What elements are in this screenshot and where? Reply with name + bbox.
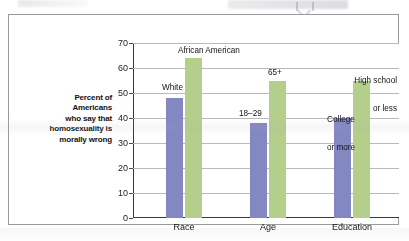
y-tick-60 [129,68,133,69]
y-axis-title-line-3: who say that [19,114,112,124]
y-tick-label-10: 10 [104,189,128,198]
scan-artifact-top [0,0,409,12]
y-axis-title-line-4: homosexuality is [19,124,112,134]
y-axis-title-line-5: morally wrong [19,135,112,145]
y-tick-label-40: 40 [104,114,128,123]
bar-race-white[interactable] [166,98,183,218]
bar-race-african-american[interactable] [185,58,202,218]
y-tick-30 [129,143,133,144]
y-axis-title-line-1: Percent of [19,93,112,103]
data-label-race-white: White [162,83,183,92]
y-tick-20 [129,168,133,169]
y-tick-label-20: 20 [104,164,128,173]
y-tick-label-60: 60 [104,64,128,73]
data-label-highschool-line-1: High school [339,76,397,85]
y-axis-title-line-2: Americans [19,103,112,113]
y-tick-50 [129,93,133,94]
plot-area: 70 60 50 40 30 20 10 0 White A [133,43,399,218]
y-tick-label-30: 30 [104,139,128,148]
y-tick-label-50: 50 [104,89,128,98]
x-tick-label-education: Education [322,222,382,232]
chevron-down-icon [296,2,314,11]
scan-smudge-right-icon [228,0,348,9]
y-tick-70 [129,43,133,44]
data-label-education-high-school-or-less: High school or less [339,57,397,132]
data-label-highschool-line-2: or less [339,104,397,113]
y-tick-0 [129,218,133,219]
bar-chart-figure: Percent of Americans who say that homose… [8,14,399,225]
data-label-age-65-plus: 65+ [268,68,282,77]
data-label-college-line-2: or more [319,143,363,152]
y-tick-label-70: 70 [104,39,128,48]
y-tick-10 [129,193,133,194]
x-tick-label-age: Age [238,222,298,232]
y-axis-title: Percent of Americans who say that homose… [19,93,112,145]
scan-smudge-left-icon [18,0,88,7]
y-tick-40 [129,118,133,119]
data-label-age-18-29: 18–29 [239,109,262,118]
y-tick-label-0: 0 [104,214,128,223]
bar-age-18-29[interactable] [250,123,267,218]
gridline-70 [133,43,399,44]
data-label-race-african-american: African American [178,46,240,55]
x-tick-label-race: Race [154,222,214,232]
bar-age-65-plus[interactable] [269,81,286,218]
